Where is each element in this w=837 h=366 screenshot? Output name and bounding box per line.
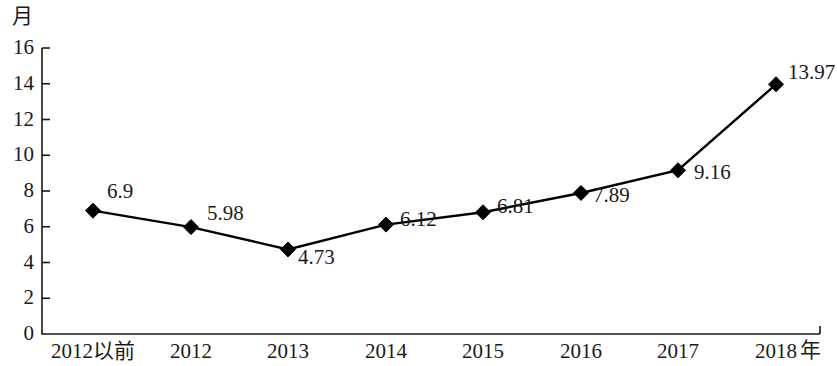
data-point-marker bbox=[574, 185, 589, 200]
data-point-value-label: 9.16 bbox=[694, 162, 731, 183]
axis-lines bbox=[42, 48, 820, 334]
data-point-value-label: 13.97 bbox=[788, 62, 835, 83]
data-point-marker bbox=[281, 242, 296, 257]
data-point-value-label: 5.98 bbox=[207, 203, 244, 224]
data-point-marker bbox=[86, 203, 101, 218]
data-point-marker bbox=[379, 217, 394, 232]
data-point-value-label: 6.81 bbox=[497, 196, 534, 217]
data-point-marker bbox=[476, 205, 491, 220]
data-point-value-label: 6.9 bbox=[107, 181, 133, 202]
data-point-value-label: 4.73 bbox=[298, 247, 335, 268]
data-point-value-label: 6.12 bbox=[400, 209, 437, 230]
data-point-marker bbox=[184, 220, 199, 235]
line-chart: 月 年 1614121086420 2012以前2012201320142015… bbox=[0, 0, 837, 366]
data-point-value-label: 7.89 bbox=[593, 185, 630, 206]
axis-frame bbox=[42, 48, 820, 334]
